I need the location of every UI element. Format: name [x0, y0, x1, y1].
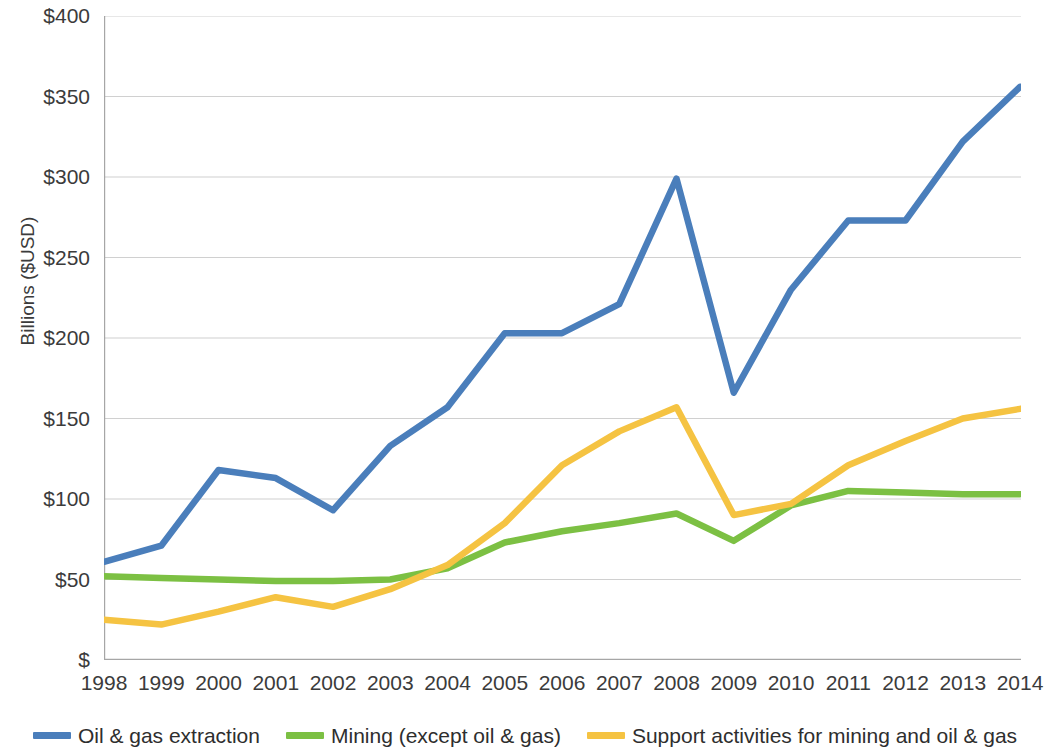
y-tick-label: $50	[18, 569, 90, 590]
legend-item[interactable]: Oil & gas extraction	[33, 725, 260, 746]
plot-svg	[104, 16, 1021, 660]
y-axis-tick-labels: $$50$100$150$200$250$300$350$400	[16, 0, 90, 753]
series-line-2	[104, 407, 1020, 624]
y-tick-label: $300	[18, 166, 90, 187]
chart-legend: Oil & gas extractionMining (except oil &…	[0, 718, 1050, 753]
legend-item-label: Oil & gas extraction	[78, 725, 260, 746]
legend-item-label: Mining (except oil & gas)	[331, 725, 561, 746]
y-tick-label: $400	[18, 5, 90, 26]
y-tick-label: $200	[18, 327, 90, 348]
y-tick-label: $	[18, 649, 90, 670]
legend-swatch-icon	[286, 732, 324, 739]
x-axis-tick-labels: 1998199920002001200220032004200520062007…	[0, 672, 1050, 706]
y-tick-label: $100	[18, 488, 90, 509]
line-chart: Billions ($USD) $$50$100$150$200$250$300…	[0, 0, 1050, 753]
x-tick-label: 2014	[985, 672, 1050, 693]
series-line-1	[104, 491, 1020, 581]
legend-swatch-icon	[587, 732, 625, 739]
legend-item-label: Support activities for mining and oil & …	[632, 725, 1017, 746]
y-tick-label: $350	[18, 86, 90, 107]
legend-item[interactable]: Mining (except oil & gas)	[286, 725, 561, 746]
legend-item[interactable]: Support activities for mining and oil & …	[587, 725, 1017, 746]
y-tick-label: $150	[18, 408, 90, 429]
y-tick-label: $250	[18, 247, 90, 268]
gridlines	[104, 16, 1021, 660]
legend-swatch-icon	[33, 732, 71, 739]
plot-area	[104, 16, 1021, 660]
